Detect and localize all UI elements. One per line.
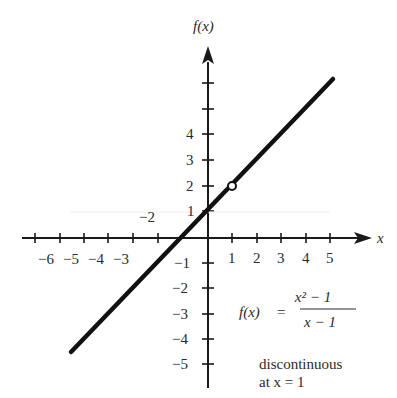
y-tick-label: −2 <box>172 280 188 296</box>
note-line-1: discontinuous <box>259 356 342 372</box>
x-tick-label: −2 <box>139 209 155 225</box>
y-tick-label: −3 <box>172 306 188 322</box>
function-graph: f(x) x −6 −5 −4 −3 −2 1 2 3 4 5 1 2 3 4 … <box>0 0 397 398</box>
formula-denominator: x − 1 <box>303 314 336 330</box>
x-tick-label: −3 <box>113 251 129 267</box>
x-tick-label: −5 <box>63 251 79 267</box>
y-axis-label: f(x) <box>193 18 214 35</box>
x-tick-label: 2 <box>253 250 261 266</box>
x-tick-label: 4 <box>302 250 310 266</box>
formula-numerator: x² − 1 <box>294 289 331 305</box>
x-tick-label: 3 <box>277 250 285 266</box>
x-tick-label: −4 <box>88 251 104 267</box>
x-tick-label: 5 <box>326 250 334 266</box>
formula-lhs: f(x) <box>239 304 260 321</box>
formula-equals: = <box>277 304 285 320</box>
y-tick-label: 2 <box>186 178 194 194</box>
x-axis-label: x <box>376 230 384 246</box>
x-tick-label: 1 <box>228 250 236 266</box>
y-tick-label: 4 <box>186 126 194 142</box>
y-tick-label: −4 <box>172 331 188 347</box>
y-tick-label: −1 <box>174 255 190 271</box>
note-line-2: at x = 1 <box>259 374 305 390</box>
function-line <box>71 79 333 352</box>
y-tick-label: 1 <box>187 203 195 219</box>
y-axis-arrow-icon <box>202 46 214 64</box>
hole-marker <box>228 182 236 190</box>
y-tick-label: 3 <box>186 152 194 168</box>
x-tick-label: −6 <box>38 251 54 267</box>
y-tick-label: −5 <box>172 356 188 372</box>
